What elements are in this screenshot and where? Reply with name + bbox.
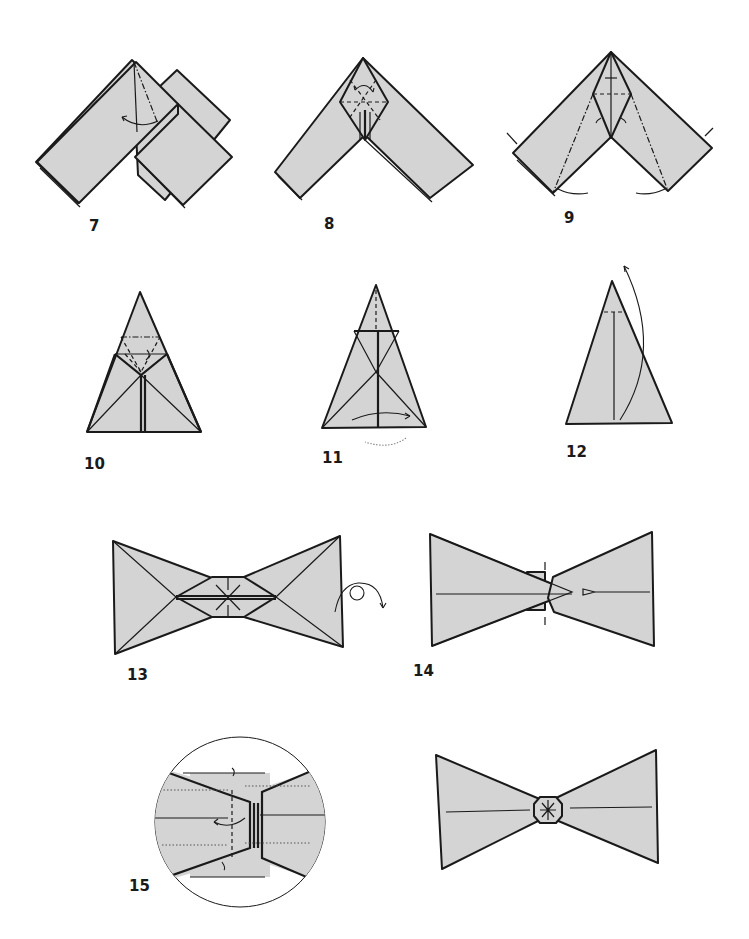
step-label-15: 15 — [129, 877, 150, 895]
step-label-7: 7 — [89, 217, 99, 235]
step-label-11: 11 — [322, 449, 343, 467]
step-8-figure — [275, 58, 473, 202]
step-9-figure — [507, 52, 713, 196]
step-12-figure — [566, 266, 672, 424]
origami-diagram — [0, 0, 749, 939]
step-7-figure — [36, 60, 232, 208]
diagram-page: 7 8 9 10 11 12 13 14 15 — [0, 0, 749, 939]
step-label-13: 13 — [127, 666, 148, 684]
step-label-10: 10 — [84, 455, 105, 473]
step-label-8: 8 — [324, 215, 334, 233]
step-11-figure — [322, 285, 426, 445]
step-10-figure — [87, 292, 201, 432]
step-label-9: 9 — [564, 209, 574, 227]
step-14-figure — [430, 532, 654, 646]
step-13-figure — [113, 536, 343, 654]
step-label-12: 12 — [566, 443, 587, 461]
step-15-figure — [150, 737, 330, 907]
step-label-14: 14 — [413, 662, 434, 680]
finished-bowtie-figure — [436, 750, 658, 869]
